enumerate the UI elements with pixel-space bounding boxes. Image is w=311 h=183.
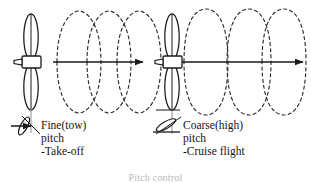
coarse-pitch-label-line3: -Cruise flight	[183, 145, 245, 158]
fine-pitch-label-line3: -Take-off	[41, 145, 86, 158]
fine-pitch-label: Fine(tow) pitch -Take-off	[41, 119, 86, 159]
coarse-pitch-label-line2: pitch	[183, 132, 245, 145]
figure-caption: Pitch control	[0, 172, 311, 183]
coarse-pitch-label-line1: Coarse(high)	[183, 119, 245, 132]
panel-coarse-pitch	[153, 9, 306, 134]
propeller-hub-fine	[14, 56, 41, 68]
propeller-hub-coarse	[155, 56, 182, 68]
airfoil-section-fine-icon	[11, 108, 40, 136]
fine-pitch-label-line2: pitch	[41, 132, 86, 145]
coarse-pitch-label: Coarse(high) pitch -Cruise flight	[183, 119, 245, 159]
fine-pitch-label-line1: Fine(tow)	[41, 119, 86, 132]
airfoil-section-coarse-icon	[153, 108, 181, 134]
figure-canvas: Fine(tow) pitch -Take-off Coarse(high) p…	[0, 0, 311, 183]
panel-fine-pitch	[11, 11, 161, 136]
